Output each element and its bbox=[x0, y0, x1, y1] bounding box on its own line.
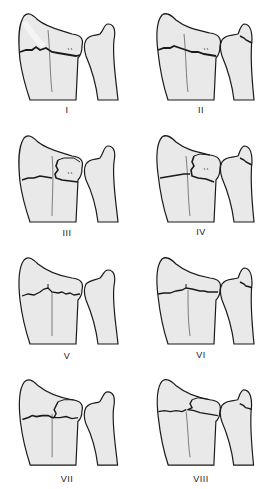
wrist-bones-illustration bbox=[134, 122, 268, 244]
radius-bone bbox=[19, 14, 83, 100]
ulna-bone bbox=[221, 146, 255, 222]
radius-bone bbox=[157, 14, 221, 100]
panel-type-8: VIII bbox=[134, 366, 268, 488]
radius-bone bbox=[157, 136, 221, 222]
panel-type-4: IV bbox=[134, 122, 268, 244]
ulna-bone bbox=[85, 270, 119, 344]
wrist-bones-illustration bbox=[134, 0, 268, 122]
panel-type-5: V bbox=[0, 244, 134, 366]
wrist-bones-illustration bbox=[0, 366, 134, 488]
radius-bone bbox=[157, 258, 221, 344]
panel-label: VIII bbox=[134, 474, 268, 484]
ulna-bone bbox=[85, 24, 119, 100]
panel-label: III bbox=[0, 228, 134, 238]
panel-label: VI bbox=[134, 350, 268, 360]
panel-type-1: I bbox=[0, 0, 134, 122]
panel-label: V bbox=[0, 351, 134, 361]
ulna-bone bbox=[84, 392, 117, 465]
radius-bone bbox=[157, 380, 220, 466]
wrist-bones-illustration bbox=[134, 366, 268, 488]
panel-type-2: II bbox=[134, 0, 268, 122]
wrist-bones-illustration bbox=[134, 244, 268, 366]
wrist-bones-illustration bbox=[0, 0, 134, 122]
panel-label: I bbox=[0, 105, 134, 115]
radius-bone bbox=[19, 136, 83, 222]
panel-type-3: III bbox=[0, 122, 134, 244]
ulna-bone bbox=[85, 146, 119, 222]
panel-label: IV bbox=[134, 227, 268, 237]
wrist-bones-illustration bbox=[0, 122, 134, 244]
panel-type-6: VI bbox=[134, 244, 268, 366]
ulna-bone bbox=[221, 24, 255, 100]
panel-label: II bbox=[134, 105, 268, 115]
wrist-bones-illustration bbox=[0, 244, 134, 366]
ulna-bone bbox=[221, 268, 255, 344]
ulna-bone bbox=[220, 390, 253, 465]
radius-bone bbox=[19, 258, 83, 344]
panel-label: VII bbox=[0, 474, 134, 484]
radius-bone bbox=[19, 380, 82, 465]
fracture-classification-figure: I II bbox=[0, 0, 268, 489]
panel-type-7: VII bbox=[0, 366, 134, 488]
